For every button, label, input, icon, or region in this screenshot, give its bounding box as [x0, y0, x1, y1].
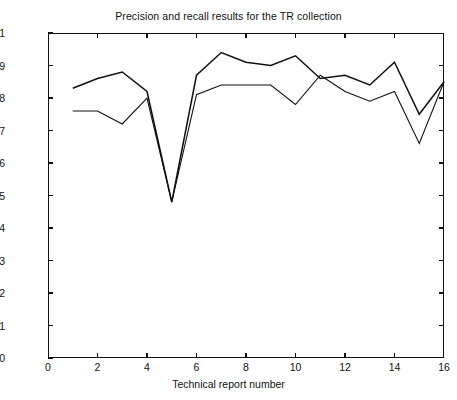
y-tick-mark-right [439, 325, 444, 326]
x-tick-mark-top [245, 33, 246, 38]
y-tick-mark-right [439, 130, 444, 131]
y-tick-mark-right [439, 97, 444, 98]
y-tick-mark [48, 227, 53, 228]
plot-area [48, 33, 444, 358]
x-tick-label: 2 [95, 361, 101, 373]
y-tick-mark [48, 260, 53, 261]
chart-figure: Precision and recall results for the TR … [0, 0, 457, 400]
y-tick-mark-right [439, 227, 444, 228]
x-tick-label: 10 [290, 361, 302, 373]
y-tick-mark-right [439, 65, 444, 66]
y-tick-label: 0.8 [0, 92, 5, 104]
y-tick-label: 1 [0, 27, 5, 39]
x-tick-mark [295, 353, 296, 358]
y-tick-mark-right [439, 162, 444, 163]
x-tick-label: 6 [194, 361, 200, 373]
y-tick-mark [48, 97, 53, 98]
x-tick-mark [196, 353, 197, 358]
x-tick-mark-top [196, 33, 197, 38]
x-tick-mark-top [295, 33, 296, 38]
y-tick-label: 0.4 [0, 222, 5, 234]
y-tick-label: 0.2 [0, 287, 5, 299]
x-tick-mark [394, 353, 395, 358]
x-tick-mark [146, 353, 147, 358]
y-tick-mark-right [439, 292, 444, 293]
y-tick-mark [48, 357, 53, 358]
x-tick-label: 14 [389, 361, 401, 373]
y-tick-label: 0 [0, 352, 5, 364]
y-tick-mark [48, 32, 53, 33]
x-tick-label: 8 [243, 361, 249, 373]
chart-title: Precision and recall results for the TR … [0, 10, 457, 22]
y-tick-label: 0.3 [0, 255, 5, 267]
x-tick-label: 16 [438, 361, 450, 373]
y-tick-mark [48, 292, 53, 293]
x-tick-mark-top [146, 33, 147, 38]
y-tick-label: 0.6 [0, 157, 5, 169]
x-tick-label: 0 [45, 361, 51, 373]
y-tick-mark [48, 162, 53, 163]
y-tick-mark [48, 195, 53, 196]
y-tick-mark-right [439, 195, 444, 196]
y-tick-label: 0.9 [0, 60, 5, 72]
x-tick-label: 12 [339, 361, 351, 373]
x-tick-mark [344, 353, 345, 358]
y-tick-label: 0.5 [0, 190, 5, 202]
y-tick-label: 0.1 [0, 320, 5, 332]
y-tick-label: 0.7 [0, 125, 5, 137]
x-tick-mark-top [97, 33, 98, 38]
x-tick-mark [97, 353, 98, 358]
y-tick-mark [48, 130, 53, 131]
x-axis-label: Technical report number [0, 378, 457, 390]
x-tick-label: 4 [144, 361, 150, 373]
y-tick-mark [48, 325, 53, 326]
y-tick-mark-right [439, 260, 444, 261]
x-tick-mark-top [394, 33, 395, 38]
y-tick-mark [48, 65, 53, 66]
x-tick-mark-top [344, 33, 345, 38]
x-tick-mark [245, 353, 246, 358]
